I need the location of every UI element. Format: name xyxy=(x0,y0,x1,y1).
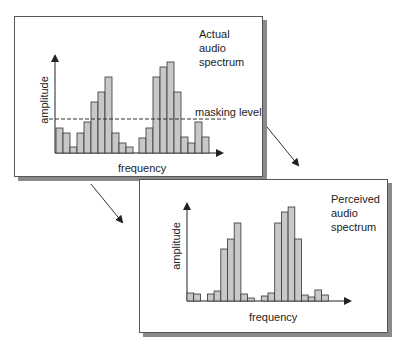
top-bars xyxy=(56,62,209,153)
spectrum-bar xyxy=(181,137,188,153)
bottom-title-line-3: spectrum xyxy=(331,220,380,234)
spectrum-bar xyxy=(248,298,255,301)
spectrum-bar xyxy=(187,293,194,301)
bottom-title: Perceived audio spectrum xyxy=(331,192,380,234)
spectrum-bar xyxy=(228,239,235,301)
arrow-left xyxy=(91,184,122,222)
spectrum-bar xyxy=(221,249,228,301)
spectrum-bar xyxy=(105,77,112,153)
bottom-title-line-1: Perceived xyxy=(331,192,380,206)
spectrum-bar xyxy=(268,293,275,301)
top-title-line-1: Actual xyxy=(199,27,244,41)
spectrum-bar xyxy=(167,62,174,153)
spectrum-bar xyxy=(194,294,201,301)
spectrum-bar xyxy=(56,128,63,153)
spectrum-bar xyxy=(207,294,214,301)
bottom-y-label: amplitude xyxy=(170,222,182,270)
top-title-line-2: audio xyxy=(199,41,244,55)
spectrum-bar xyxy=(234,223,241,301)
spectrum-bar xyxy=(112,133,119,153)
top-y-label: amplitude xyxy=(38,76,50,124)
spectrum-bar xyxy=(63,133,70,153)
spectrum-bar xyxy=(281,212,288,301)
spectrum-bar xyxy=(308,297,315,301)
spectrum-bar xyxy=(146,128,153,153)
bottom-bars xyxy=(187,207,328,301)
top-x-label: frequency xyxy=(118,161,166,175)
spectrum-bar xyxy=(91,102,98,153)
spectrum-bar xyxy=(139,138,146,153)
spectrum-bar xyxy=(295,239,302,301)
bottom-title-line-2: audio xyxy=(331,206,380,220)
top-title: Actual audio spectrum xyxy=(199,27,244,69)
bottom-x-label: frequency xyxy=(249,310,297,324)
spectrum-bar xyxy=(214,291,221,301)
spectrum-bar xyxy=(188,143,195,153)
spectrum-bar xyxy=(174,92,181,153)
spectrum-bar xyxy=(153,77,160,153)
spectrum-bar xyxy=(98,92,105,153)
spectrum-bar xyxy=(275,223,282,301)
spectrum-bar xyxy=(160,67,167,153)
arrow-right xyxy=(267,127,298,165)
spectrum-bar xyxy=(77,133,84,153)
spectrum-bar xyxy=(315,290,322,301)
spectrum-bar xyxy=(195,122,202,153)
spectrum-bar xyxy=(241,294,248,301)
spectrum-bar xyxy=(84,122,91,153)
spectrum-bar xyxy=(261,296,268,301)
spectrum-bar xyxy=(70,147,77,153)
spectrum-bar xyxy=(202,137,209,153)
spectrum-bar xyxy=(302,295,309,301)
spectrum-bar xyxy=(322,295,329,301)
top-title-line-3: spectrum xyxy=(199,55,244,69)
spectrum-bar xyxy=(288,207,295,301)
masking-level-label: masking level xyxy=(195,105,262,119)
spectrum-bar xyxy=(119,143,126,153)
spectrum-bar xyxy=(126,147,133,153)
